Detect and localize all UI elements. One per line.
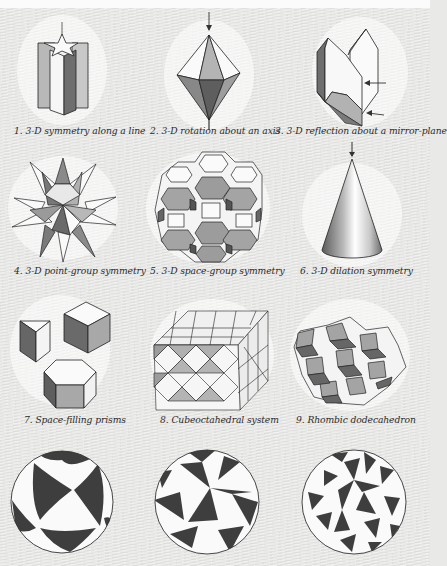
figure-1-star-prism xyxy=(0,0,140,130)
figure-3-caption: 3. 3-D reflection about a mirror-plane xyxy=(275,125,447,136)
figure-8-caption: 8. Cubeoctahedral system xyxy=(160,414,279,425)
figure-7-caption: 7. Space-filling prisms xyxy=(24,414,126,425)
bipyramid-drawing xyxy=(140,0,290,130)
mirror-crystal-drawing xyxy=(280,0,430,130)
figure-4-caption: 4. 3-D point-group symmetry xyxy=(14,265,146,276)
sphere-tiling-a-drawing xyxy=(0,430,140,566)
sphere-tiling-c-drawing xyxy=(280,430,430,566)
star-prism-drawing xyxy=(0,0,140,130)
truncated-octahedra-drawing xyxy=(140,150,290,265)
figure-5-truncated-octahedra xyxy=(140,150,290,265)
figure-9-caption: 9. Rhombic dodecahedron xyxy=(296,414,416,425)
figure-8-cuboctahedral-lattice xyxy=(140,285,290,410)
cuboctahedral-lattice-drawing xyxy=(140,285,290,410)
figure-3-mirror-crystal xyxy=(280,0,430,130)
figure-7-prisms xyxy=(0,290,140,410)
figure-11-sphere-tiling-b xyxy=(140,430,290,566)
figure-10-sphere-tiling-a xyxy=(0,430,140,566)
rhombic-dodecahedra-drawing xyxy=(280,285,430,410)
figure-4-stellated-polyhedron xyxy=(0,150,140,265)
figure-5-caption: 5. 3-D space-group symmetry xyxy=(150,265,285,276)
cone-drawing xyxy=(280,140,430,265)
figure-12-sphere-tiling-c xyxy=(280,430,430,566)
figure-6-cone xyxy=(280,140,430,265)
figure-1-caption: 1. 3-D symmetry along a line xyxy=(14,125,145,136)
stellated-polyhedron-drawing xyxy=(0,150,140,265)
figure-6-caption: 6. 3-D dilation symmetry xyxy=(300,265,413,276)
figure-2-caption: 2. 3-D rotation about an axis xyxy=(150,125,280,136)
prisms-drawing xyxy=(0,290,140,410)
figure-9-rhombic-dodecahedra xyxy=(280,285,430,410)
sphere-tiling-b-drawing xyxy=(140,430,290,566)
figure-2-bipyramid xyxy=(140,0,290,130)
